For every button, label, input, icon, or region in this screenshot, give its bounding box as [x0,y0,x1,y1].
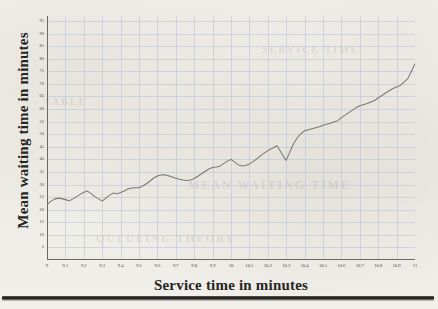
x-tick-label: 9.1 [63,264,69,269]
y-tick-label: 80 [40,57,44,61]
y-tick-label: 25 [40,195,44,199]
y-tick-label: 70 [40,82,44,86]
x-tick-label: 10.9 [393,264,401,269]
x-tick-label: 9.6 [155,264,161,269]
x-tick-label: 11 [413,264,417,269]
x-tick-label: 9 [46,264,48,269]
y-tick-label: 50 [40,132,44,136]
y-tick-label: 95 [40,19,44,23]
y-tick-label: 30 [40,182,44,186]
x-tick-label: 10 [229,264,234,269]
y-tick-label: 10 [40,233,44,237]
y-tick-label: 85 [40,44,44,48]
y-tick-label: 75 [40,69,44,73]
x-tick-label: 9.3 [99,264,105,269]
x-axis-title: Service time in minutes [47,277,415,294]
x-tick-label: 9.7 [173,264,179,269]
x-tick-label: 10.6 [337,264,345,269]
y-tick-label: 55 [40,119,44,123]
y-tick-label: 45 [40,145,44,149]
y-axis-title: Mean waiting time in minutes [15,26,32,236]
y-tick-label: 60 [40,107,44,111]
y-tick-label: 65 [40,94,44,98]
x-tick-label: 9.9 [210,264,216,269]
x-tick-label: 10.3 [282,264,290,269]
x-tick-label: 9.2 [81,264,87,269]
chart-figure: Mean waiting time in minutes 51015202530… [0,0,438,309]
chart-canvas [47,16,415,260]
page-edge-rule-shadow [2,300,434,301]
plot-area: 5101520253035404550556065707580859095 99… [47,16,415,260]
y-tick-label: 90 [40,31,44,35]
x-tick-label: 10.8 [374,264,382,269]
x-tick-label: 9.5 [136,264,142,269]
y-tick-label: 5 [42,245,44,249]
y-tick-label: 35 [40,170,44,174]
x-tick-label: 10.7 [356,264,364,269]
y-tick-label: 15 [40,220,44,224]
x-tick-label: 9.8 [191,264,197,269]
x-tick-label: 10.2 [264,264,272,269]
x-tick-label: 10.5 [319,264,327,269]
y-tick-label: 40 [40,157,44,161]
x-tick-label: 9.4 [118,264,124,269]
vertical-gridlines [48,16,416,260]
x-tick-label: 10.1 [245,264,253,269]
x-tick-label: 10.4 [301,264,309,269]
y-tick-label: 20 [40,207,44,211]
